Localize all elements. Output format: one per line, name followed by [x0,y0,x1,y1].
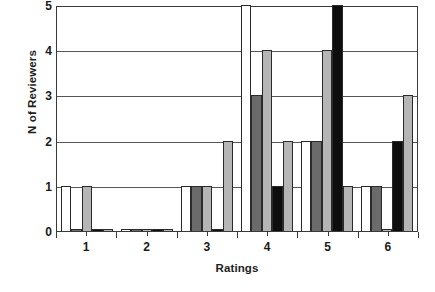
bar-group-3 [177,7,237,231]
bar [121,229,132,232]
bar-group-5 [297,7,357,231]
bar-group-4 [237,7,297,231]
bars-layer [57,7,417,231]
x-axis-tick-marks [56,232,418,239]
y-axis-tick-label: 4 [30,45,52,57]
bar-group-1 [57,7,117,231]
bar [191,186,202,231]
x-axis-tick-label-group: 123456 [56,239,418,257]
bar [181,186,192,231]
x-axis-tick-mark-center [388,232,389,236]
y-axis-tick-label: 1 [30,181,52,193]
bar [283,141,294,231]
bar [103,229,114,232]
bar [382,229,393,232]
x-axis-tick-label: 2 [116,239,176,257]
x-axis-tick-label: 6 [358,239,418,257]
x-axis-tick-mark-center [267,232,268,236]
bar [301,141,312,231]
bar [392,141,403,231]
bar [152,229,163,232]
bar [82,186,93,231]
x-axis-tick-label: 1 [56,239,116,257]
x-axis-tick-label: 4 [237,239,297,257]
y-axis-tick-label: 0 [30,226,52,238]
x-axis-tick-mark-center [86,232,87,236]
bar [202,186,213,231]
x-axis-tick-mark-center [207,232,208,236]
bar [131,229,142,232]
x-axis-title: Ratings [56,262,418,274]
bar [71,229,82,232]
bar [371,186,382,231]
x-axis-tick-mark [237,232,238,238]
bar [251,95,262,231]
bar-group-6 [357,7,417,231]
bar [332,5,343,231]
x-axis-tick-mark-center [147,232,148,236]
bar [311,141,322,231]
x-axis-tick-mark [418,232,419,238]
y-axis-tick-label-group: 012345 [30,0,52,232]
x-axis-tick-label: 5 [297,239,357,257]
x-axis-tick-mark [358,232,359,238]
bar [142,229,153,232]
bar [61,186,72,231]
bar [241,5,252,231]
bar-chart: N of Reviewers 012345 123456 Ratings [0,0,435,292]
bar [212,229,223,232]
x-axis-tick-mark [116,232,117,238]
bar [343,186,354,231]
x-axis-tick-mark [56,232,57,238]
x-axis-tick-mark [297,232,298,238]
y-axis-tick-label: 2 [30,136,52,148]
bar [361,186,372,231]
bar [92,229,103,232]
bar [262,50,273,231]
bar [272,186,283,231]
bar [403,95,414,231]
bar-group-2 [117,7,177,231]
x-axis-tick-mark-center [328,232,329,236]
bar [163,229,174,232]
x-axis-tick-mark [177,232,178,238]
y-axis-tick-label: 5 [30,0,52,12]
bar [322,50,333,231]
y-axis-tick-label: 3 [30,90,52,102]
plot-area [56,6,418,232]
bar [223,141,234,231]
x-axis-tick-label: 3 [177,239,237,257]
